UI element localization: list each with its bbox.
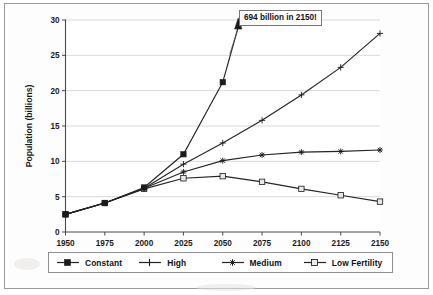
x-tick-label: 2075 bbox=[253, 239, 272, 248]
x-tick-label: 2100 bbox=[292, 239, 311, 248]
legend-item-medium[interactable]: Medium bbox=[221, 257, 303, 268]
x-tick-label: 1950 bbox=[56, 239, 75, 248]
x-tick-label: 2000 bbox=[135, 239, 154, 248]
legend-label-high: High bbox=[167, 258, 186, 268]
legend-item-low-fertility[interactable]: Low Fertility bbox=[303, 257, 385, 268]
legend-label-medium: Medium bbox=[250, 258, 282, 268]
data-point-marker bbox=[338, 193, 343, 198]
legend-row: Constant High Medium bbox=[49, 253, 392, 272]
data-point-marker bbox=[141, 185, 146, 190]
chart-legend: Constant High Medium bbox=[48, 252, 393, 273]
y-tick-label: 10 bbox=[50, 157, 60, 166]
legend-label-low-fertility: Low Fertility bbox=[332, 258, 383, 268]
x-tick-label: 2125 bbox=[332, 239, 351, 248]
annotation-callout: 694 billion in 2150! bbox=[239, 10, 322, 26]
x-tick-label: 1975 bbox=[96, 239, 115, 248]
legend-item-high[interactable]: High bbox=[138, 257, 220, 268]
data-point-marker bbox=[63, 212, 68, 217]
y-tick-label: 20 bbox=[50, 87, 60, 96]
y-tick-label: 5 bbox=[55, 193, 60, 202]
data-point-marker bbox=[259, 179, 264, 184]
annotation-text: 694 billion in 2150! bbox=[244, 13, 317, 22]
data-point-marker bbox=[220, 173, 225, 178]
y-axis-title: Population (billions) bbox=[24, 85, 34, 168]
data-point-marker bbox=[102, 200, 107, 205]
legend-marker-asterisk bbox=[221, 257, 245, 268]
x-tick-label: 2025 bbox=[174, 239, 193, 248]
x-tick-label: 2150 bbox=[371, 239, 390, 248]
x-tick-label: 2050 bbox=[214, 239, 233, 248]
y-tick-label: 0 bbox=[55, 228, 60, 237]
chart-plot-region: 0510152025301950197520002025205020752100… bbox=[0, 0, 433, 295]
legend-marker-filled-square bbox=[56, 257, 80, 268]
y-tick-label: 30 bbox=[50, 16, 60, 25]
legend-item-constant[interactable]: Constant bbox=[56, 257, 138, 268]
legend-marker-plus bbox=[138, 257, 162, 268]
chart-page: 0510152025301950197520002025205020752100… bbox=[0, 0, 433, 295]
data-point-marker bbox=[181, 152, 186, 157]
legend-marker-open-square bbox=[303, 257, 327, 268]
population-projection-chart: 0510152025301950197520002025205020752100… bbox=[0, 0, 433, 295]
y-tick-label: 15 bbox=[50, 122, 60, 131]
data-point-marker bbox=[181, 176, 186, 181]
legend-label-constant: Constant bbox=[85, 258, 122, 268]
data-point-marker bbox=[299, 186, 304, 191]
data-point-marker bbox=[377, 199, 382, 204]
y-tick-label: 25 bbox=[50, 51, 60, 60]
